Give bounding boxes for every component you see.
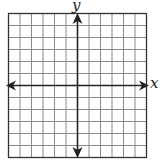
coordinate-grid [0,0,163,166]
y-axis-label: y [72,0,80,13]
x-axis-label: x [150,76,158,91]
